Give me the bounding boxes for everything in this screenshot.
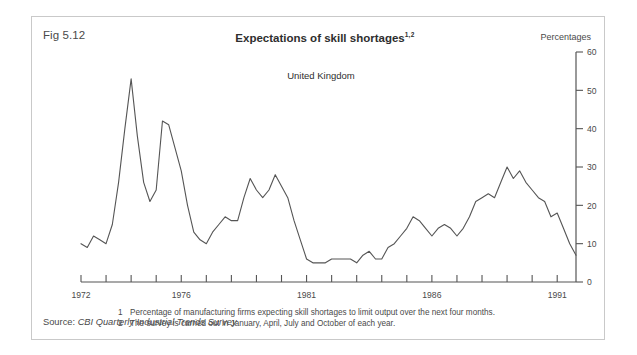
x-axis-tick-label: 1972	[71, 290, 90, 300]
data-series-line	[81, 79, 576, 263]
x-axis-ticks	[81, 275, 557, 282]
x-axis-tick-label: 1976	[172, 290, 191, 300]
source-text: CBI Quarterly Industrial Trends Survey	[78, 317, 237, 327]
source-prefix: Source:	[43, 317, 75, 327]
y-axis-tick-label: 20	[587, 201, 597, 211]
source-line: Source: CBI Quarterly Industrial Trends …	[43, 317, 237, 327]
y-axis-tick-label: 0	[587, 277, 592, 287]
x-axis-tick-label: 1981	[297, 290, 316, 300]
y-axis-ticks	[576, 52, 583, 282]
x-axis-tick-labels: 19721976198119861991	[71, 290, 567, 300]
y-axis-tick-label: 30	[587, 162, 597, 172]
x-axis-tick-label: 1986	[422, 290, 441, 300]
chart-axes	[81, 52, 576, 282]
y-axis-tick-labels: 0102030405060	[587, 47, 597, 287]
y-axis-tick-label: 40	[587, 124, 597, 134]
x-axis-tick-label: 1991	[548, 290, 567, 300]
y-axis-tick-label: 60	[587, 47, 597, 57]
figure-panel: Fig 5.12 Expectations of skill shortages…	[31, 16, 605, 340]
y-axis-tick-label: 10	[587, 239, 597, 249]
line-chart-plot: 19721976198119861991 0102030405060	[32, 17, 606, 341]
y-axis-tick-label: 50	[587, 86, 597, 96]
